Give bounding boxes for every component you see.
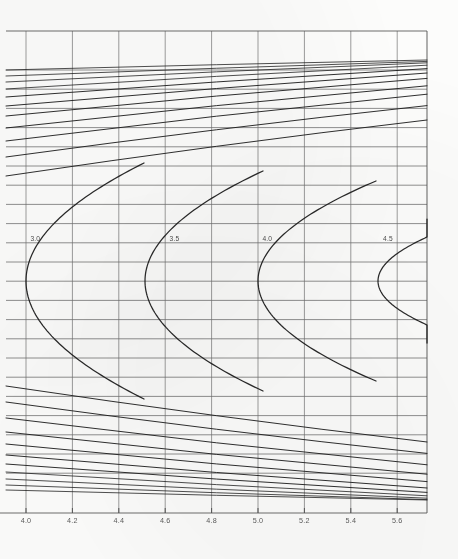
- x-tick-label-5.2: 5.2: [299, 516, 310, 525]
- curve-label-3.0: 3.0: [30, 235, 40, 242]
- nomograph-plot: 4.04.24.44.64.85.05.25.45.6 3.03.54.04.5: [0, 0, 458, 559]
- x-tick-label-4.4: 4.4: [114, 516, 125, 525]
- x-tick-label-4.0: 4.0: [21, 516, 32, 525]
- x-tick-label-4.2: 4.2: [67, 516, 78, 525]
- curve-label-4.5: 4.5: [383, 235, 393, 242]
- curve-label-3.5: 3.5: [170, 235, 180, 242]
- x-tick-label-5.0: 5.0: [253, 516, 264, 525]
- x-tick-label-5.4: 5.4: [346, 516, 357, 525]
- chart-root: 4.04.24.44.64.85.05.25.45.6 3.03.54.04.5: [0, 0, 458, 559]
- chart-background: [0, 0, 458, 559]
- x-tick-label-5.6: 5.6: [392, 516, 403, 525]
- x-tick-label-4.8: 4.8: [206, 516, 217, 525]
- curve-label-4.0: 4.0: [262, 235, 272, 242]
- x-tick-label-4.6: 4.6: [160, 516, 171, 525]
